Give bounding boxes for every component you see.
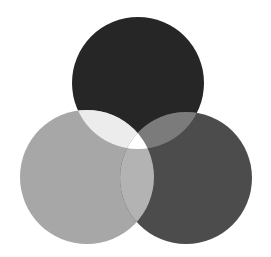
venn-diagram <box>0 0 271 257</box>
